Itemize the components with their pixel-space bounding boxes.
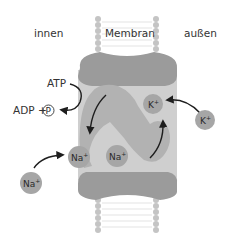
atp-label: ATP [47, 77, 66, 89]
phosphate-label: P [46, 106, 52, 116]
ion-k-outside: K+ [195, 110, 215, 130]
label-inside: innen [34, 27, 63, 39]
membrane-lipids-bottom [95, 197, 159, 233]
ion-na-outside: Na+ [20, 172, 42, 194]
ion-k-inside: K+ [143, 94, 163, 114]
pump-top-domain [78, 52, 177, 86]
pump-bottom-domain [78, 172, 177, 200]
na-binding-arrow [34, 155, 62, 168]
ion-na-inside-1: Na+ [68, 146, 90, 168]
sodium-potassium-pump-diagram: innen Membran außen ATP ADP + P K+ K+ Na… [0, 0, 229, 244]
adp-label: ADP + [13, 104, 47, 116]
label-membrane: Membran [105, 27, 155, 39]
ion-na-inside-2: Na+ [106, 145, 128, 167]
label-outside: außen [184, 27, 217, 39]
